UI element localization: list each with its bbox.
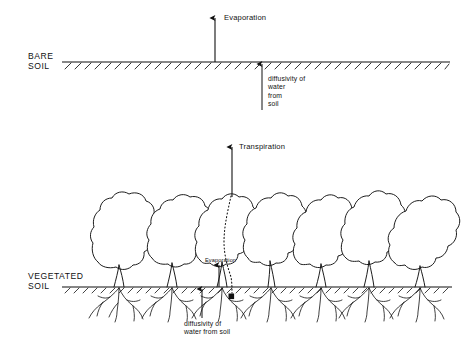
- roots-4: [241, 288, 295, 322]
- roots-2: [142, 288, 196, 322]
- roots-1: [89, 288, 143, 322]
- roots-6: [339, 288, 393, 322]
- tree-canopy-1: [90, 192, 155, 270]
- bare-soil-panel: [62, 18, 450, 110]
- diffusivity-label-bare: diffusivity of water from soil: [268, 75, 305, 108]
- bare-soil-ground-line: [62, 62, 450, 69]
- root-systems: [89, 288, 444, 322]
- vegetated-soil-label: VEGETATED SOIL: [28, 272, 83, 291]
- vegetated-soil-panel: [62, 147, 460, 322]
- bare-soil-label: BARE SOIL: [28, 52, 53, 71]
- tree-canopies: [90, 191, 459, 270]
- soil-water-flux-diagram: [0, 0, 469, 357]
- evaporation-label-bare: Evaporation: [224, 14, 266, 23]
- diffusivity-label-vegetated: diffusivity of water from soil: [184, 320, 230, 337]
- evaporation-label-vegetated: Evaporation: [205, 257, 236, 263]
- tree-trunks: [114, 261, 425, 287]
- vegetated-soil-ground-line: [62, 287, 452, 293]
- transpiration-label: Transpiration: [239, 143, 285, 152]
- root-water-uptake-marker: [229, 294, 235, 300]
